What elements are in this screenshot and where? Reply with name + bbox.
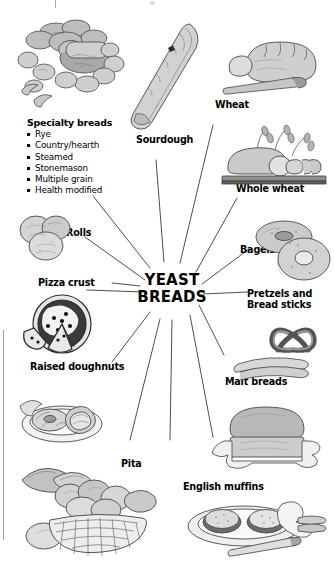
illustration-pretzel-bread-sticks [236,314,334,380]
illustration-english-muffins [178,492,330,564]
illustration-raised-doughnuts [16,380,114,456]
list-item: Rye [27,129,112,140]
specialty-breads-block: Specialty breads Rye Country/hearth Stea… [27,117,112,197]
hub-line-1: YEAST [130,272,214,289]
label-sourdough: Sourdough [136,135,193,146]
specialty-breads-list: Rye Country/hearth Steamed Stonemason Mu… [27,129,112,197]
label-pita: Pita [121,459,142,470]
list-item: Multiple grain [27,174,112,185]
hub-title: YEAST BREADS [130,272,214,306]
illustration-whole-wheat [218,126,330,188]
specialty-breads-title: Specialty breads [27,117,112,129]
label-pizza-crust: Pizza crust [38,278,95,289]
illustration-wheat-loaf [218,28,330,102]
label-pretzels-line-2: Bread sticks [247,300,312,311]
illustration-rolls [14,212,76,266]
illustration-sourdough [128,18,208,134]
illustration-malt-breads [208,393,324,473]
illustration-specialty-breads [14,14,142,114]
list-item: Health modified [27,185,112,196]
illustration-pizza-crust [18,290,100,366]
yeast-breads-diagram: YEAST BREADS Specialty breads Rye Countr… [0,0,334,568]
illustration-bagels [252,215,334,285]
illustration-bread-basket [20,478,168,564]
label-pretzels-bread-sticks: Pretzels and Bread sticks [247,289,312,310]
list-item: Country/hearth [27,140,112,151]
list-item: Stonemason [27,163,112,174]
list-item: Steamed [27,152,112,163]
hub-line-2: BREADS [130,289,214,306]
